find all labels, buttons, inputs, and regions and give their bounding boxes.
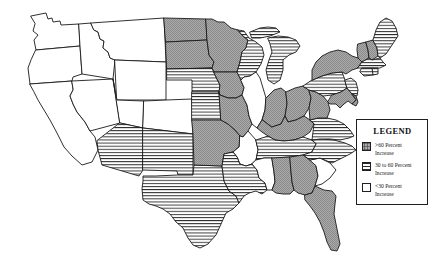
legend-item-mid: 30 to 60 Percent Increase [362,162,423,177]
legend-item-high: >60 Percent Increase [362,142,423,157]
state-KS [192,92,221,120]
legend-title: LEGEND [362,126,423,136]
state-NM [143,128,193,175]
state-WA [31,13,80,50]
legend-label-low: <30 Percent Increase [375,183,402,198]
legend-label-mid-line2: Increase [375,170,412,178]
legend-label-low-line1: <30 Percent [375,183,402,191]
legend-label-high-line1: >60 Percent [375,142,402,150]
state-OH [285,86,311,122]
state-VA [310,118,354,140]
state-SD [166,40,214,69]
state-WY [115,60,166,100]
legend-label-high-line2: Increase [375,150,402,158]
legend-label-mid-line1: 30 to 60 Percent [375,162,412,170]
legend-label-high: >60 Percent Increase [375,142,402,157]
state-CT [360,68,373,76]
us-choropleth-map: LEGEND >60 Percent Increase 30 to 60 Per… [0,0,436,276]
state-OR [28,46,82,84]
state-FL [305,186,340,251]
state-ND [164,18,207,42]
legend-swatch-high-icon [362,142,371,151]
state-NE [167,68,220,92]
legend: LEGEND >60 Percent Increase 30 to 60 Per… [356,119,428,205]
legend-item-low: <30 Percent Increase [362,183,423,198]
legend-label-low-line2: Increase [375,191,402,199]
state-AZ [97,123,143,176]
states-layer [28,13,398,251]
legend-swatch-low-icon [362,183,371,192]
legend-label-mid: 30 to 60 Percent Increase [375,162,412,177]
legend-swatch-mid-icon [362,162,371,171]
